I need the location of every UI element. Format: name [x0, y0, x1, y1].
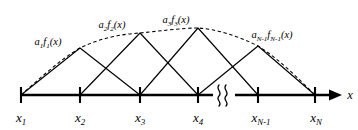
axis-break-squiggle-icon [218, 85, 227, 106]
node-xN-sub: N [315, 117, 323, 127]
node-x3-sub: 3 [140, 117, 146, 127]
node-label-x1: x1 [15, 110, 26, 127]
basis-hat-aNm1fNm1 [198, 46, 315, 95]
basis-function-diagram: a1f1(x) a2f2(x) a3f3(x) aN-1fN-1(x) x1 x… [0, 0, 358, 130]
node-label-x4: x4 [192, 110, 204, 127]
node-label-xN-1: xN-1 [250, 110, 270, 127]
node-label-x3: x3 [134, 110, 146, 127]
break-squiggle-stroke-1 [218, 85, 220, 106]
node-label-x2: x2 [74, 110, 86, 127]
a3f3-argument: (x) [178, 14, 190, 26]
basis-label-aN-1fN-1: aN-1fN-1(x) [251, 29, 293, 43]
aNm1fNm1-coefficient-sub: N-1 [256, 35, 268, 43]
aNm1fNm1-argument: (x) [281, 29, 293, 41]
axis-name-label: x [346, 88, 353, 102]
aNm1fNm1-function-sub: N-1 [269, 35, 281, 43]
node-x2-sub: 2 [81, 117, 86, 127]
a2f2-argument: (x) [114, 19, 126, 31]
a1f1-argument: (x) [50, 36, 62, 48]
basis-label-a3f3: a3f3(x) [163, 14, 190, 28]
break-squiggle-stroke-2 [225, 85, 227, 106]
node-x1-sub: 1 [22, 117, 26, 127]
basis-label-a2f2: a2f2(x) [99, 19, 126, 33]
figure-container: a1f1(x) a2f2(x) a3f3(x) aN-1fN-1(x) x1 x… [0, 0, 358, 130]
node-x4-sub: 4 [199, 117, 204, 127]
node-xNm1-sub: N-1 [256, 117, 270, 127]
hat-a2f2-path [80, 33, 198, 95]
hat-a3f3-path [140, 28, 258, 95]
hat-aNm1fNm1-path [198, 46, 315, 95]
basis-hat-a3f3 [140, 28, 258, 95]
axis-arrowhead-icon [329, 90, 342, 101]
basis-hat-a2f2 [80, 33, 198, 95]
basis-label-a1f1: a1f1(x) [35, 36, 62, 50]
node-label-xN: xN [309, 110, 323, 127]
